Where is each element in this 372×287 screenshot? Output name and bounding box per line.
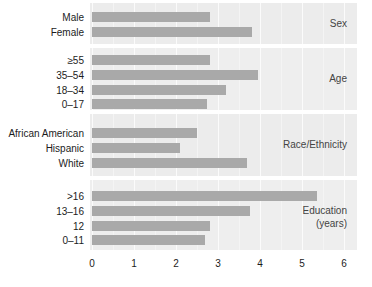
category-label-education-12: 12	[0, 222, 84, 232]
category-label-white: White	[0, 159, 84, 169]
gridline-0-5	[113, 3, 114, 44]
bar-education-12	[92, 221, 210, 231]
x-tick-label-4: 4	[245, 258, 275, 269]
x-tick-label-6: 6	[329, 258, 359, 269]
facet-title-education: Education	[303, 205, 347, 217]
facet-title-sex: Sex	[330, 18, 347, 30]
category-label-education-0-11: 0–11	[0, 236, 84, 246]
bar-african-american	[92, 128, 197, 138]
category-label-hispanic: Hispanic	[0, 144, 84, 154]
gridline-5-5	[323, 3, 324, 44]
facet-panel-sex: Sex	[90, 3, 357, 44]
x-tick-label-0: 0	[77, 258, 107, 269]
bar-female	[92, 27, 252, 37]
category-label-education-13-16: 13–16	[0, 207, 84, 217]
x-tick-label-2: 2	[161, 258, 191, 269]
gridline-4-5	[281, 114, 282, 176]
bar-education-over-16	[92, 191, 317, 201]
bar-hispanic	[92, 143, 180, 153]
gridline-4-5	[281, 3, 282, 44]
gridline-2	[176, 3, 177, 44]
category-label-male: Male	[0, 13, 84, 23]
gridline-2-5	[197, 3, 198, 44]
facet-title-education-unit: (years)	[316, 218, 347, 230]
category-label-female: Female	[0, 28, 84, 38]
gridline-5	[302, 48, 303, 110]
bar-education-13-16	[92, 206, 250, 216]
gridline-4	[260, 3, 261, 44]
category-label-african-american: African American	[0, 129, 84, 139]
gridline-5-5	[323, 48, 324, 110]
facet-panel-race-ethnicity: Race/Ethnicity	[90, 114, 357, 176]
bar-age-35-54	[92, 70, 258, 80]
gridline-1	[134, 3, 135, 44]
x-tick-label-3: 3	[203, 258, 233, 269]
gridline-3	[218, 3, 219, 44]
bar-male	[92, 12, 210, 22]
gridline-1-5	[155, 3, 156, 44]
category-label-age-55plus: ≥55	[0, 56, 84, 66]
gridline-4	[260, 48, 261, 110]
facet-title-age: Age	[329, 73, 347, 85]
bar-white	[92, 158, 247, 168]
gridline-4-5	[281, 48, 282, 110]
bar-age-0-17	[92, 99, 207, 109]
x-tick-label-1: 1	[119, 258, 149, 269]
category-label-age-18-34: 18–34	[0, 86, 84, 96]
gridline-4	[260, 114, 261, 176]
bar-education-0-11	[92, 235, 205, 245]
facet-panel-age: Age	[90, 48, 357, 110]
facet-title-race-ethnicity: Race/Ethnicity	[283, 139, 347, 151]
bar-age-55plus	[92, 55, 210, 65]
gridline-0	[92, 3, 93, 44]
category-label-age-35-54: 35–54	[0, 71, 84, 81]
category-label-education-over-16: >16	[0, 192, 84, 202]
bar-age-18-34	[92, 85, 226, 95]
gridline-3-5	[239, 3, 240, 44]
bar-chart: Sex Male Female Age ≥55 35–54 18–34 0–17	[0, 0, 372, 287]
facet-panel-education: Education (years)	[90, 180, 357, 250]
gridline-5	[302, 3, 303, 44]
category-label-age-0-17: 0–17	[0, 100, 84, 110]
x-tick-label-5: 5	[287, 258, 317, 269]
